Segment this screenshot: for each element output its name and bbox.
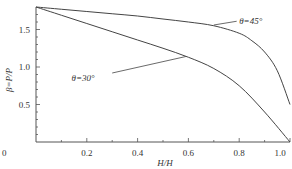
labels: 00.20.40.60.81.00.51.01.5H/Hβ=P/Pθ=45°θ=… [2, 16, 286, 169]
x-tick-label: 0 [2, 148, 7, 158]
y-axis-label: β=P/P [4, 67, 14, 93]
x-tick-label: 0.6 [183, 148, 195, 158]
leader-line-30 [112, 57, 186, 74]
x-tick-label: 1.0 [274, 148, 286, 158]
y-tick-label: 1.5 [19, 25, 31, 35]
x-axis-label: H/H [156, 158, 173, 168]
y-tick-label: 0.5 [19, 100, 31, 110]
y-tick-label: 1.0 [19, 62, 31, 72]
x-tick-label: 0.4 [132, 148, 144, 158]
chart: 00.20.40.60.81.00.51.01.5H/Hβ=P/Pθ=45°θ=… [0, 0, 292, 168]
x-tick-label: 0.2 [81, 148, 92, 158]
leader-line-45 [214, 21, 237, 25]
annotation-theta-45: θ=45° [239, 16, 262, 26]
x-tick-label: 0.8 [234, 148, 246, 158]
annotation-theta-30: θ=30° [72, 73, 95, 83]
